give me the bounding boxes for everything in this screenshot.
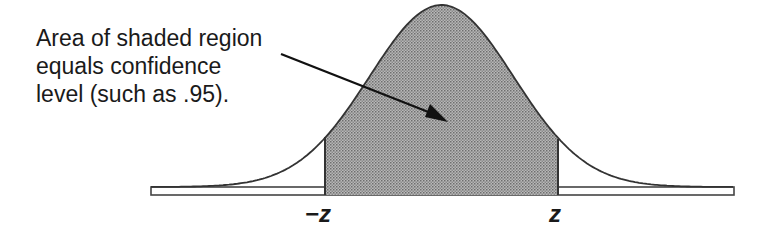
annotation-text: Area of shaded region equals confidence … [36,24,262,108]
shaded-confidence-region [325,5,558,195]
annotation-line-3: level (such as .95). [36,80,262,108]
annotation-line-1: Area of shaded region [36,24,262,52]
negative-z-label: −z [305,200,331,228]
annotation-line-2: equals confidence [36,52,262,80]
positive-z-label: z [549,200,561,228]
